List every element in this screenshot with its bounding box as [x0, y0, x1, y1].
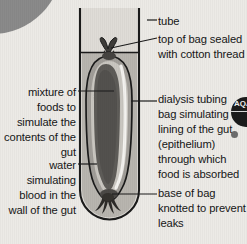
- label-top-of-bag: top of bag sealed with cotton thread: [158, 32, 246, 62]
- label-water-simulating-blood: water simulating blood in the wall of th…: [2, 158, 76, 218]
- gut-model-figure: mixture of foods to simulate the content…: [0, 0, 247, 244]
- label-tube: tube: [158, 14, 244, 29]
- top-knot-gather: [102, 52, 116, 60]
- publisher-badge-dot: [231, 131, 238, 138]
- label-base-of-bag: base of bag knotted to prevent leaks: [158, 186, 246, 231]
- label-mixture-of-foods: mixture of foods to simulate the content…: [2, 85, 76, 160]
- publisher-badge-text: AQA: [234, 99, 247, 108]
- publisher-badge-rule: [231, 111, 247, 112]
